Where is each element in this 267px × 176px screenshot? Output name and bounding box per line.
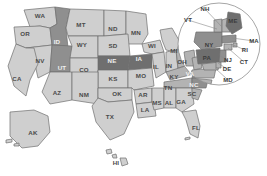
state-label-wy: WY [77,41,88,48]
state-label-ok: OK [112,90,122,97]
state-label-mt: MT [76,21,85,28]
state-nd[interactable] [104,10,126,36]
state-label-sc: SC [188,90,197,97]
inset-state-label-me: ME [228,18,237,24]
state-label-in: IN [166,62,173,69]
inset-state-label-vt: VT [184,17,192,23]
inset-state-label-ma: MA [249,38,259,44]
state-label-wi: WI [148,42,156,49]
state-nm[interactable] [72,72,98,104]
aleutian-island-1[interactable] [6,139,12,143]
state-ca[interactable] [8,44,38,96]
state-label-or: OR [20,30,30,37]
inset-state-ct[interactable] [224,44,232,50]
inset-state-label-ct: CT [240,59,249,65]
state-hi[interactable] [120,158,128,166]
state-label-mo: MO [136,72,146,79]
florida-keys[interactable] [185,137,190,140]
state-label-nc: NC [189,81,199,88]
state-label-nv: NV [36,57,46,64]
state-label-co: CO [79,66,89,73]
state-label-ut: UT [58,64,67,71]
inset-state-label-md: MD [223,77,233,83]
state-label-ia: IA [136,55,143,62]
state-label-nd: ND [108,25,118,32]
state-label-nm: NM [79,91,89,98]
state-mn[interactable] [126,11,148,44]
state-label-hi: HI [113,159,120,166]
state-label-ky: KY [170,73,180,80]
state-label-tx: TX [106,113,115,120]
state-label-az: AZ [53,89,62,96]
state-label-ak: AK [28,129,38,136]
state-label-sd: SD [109,42,118,49]
hawaii-island-1[interactable] [106,149,112,154]
state-label-ar: AR [138,91,148,98]
state-label-ks: KS [109,75,118,82]
inset-state-ma[interactable] [222,35,236,43]
state-label-ne: NE [108,57,117,64]
inset-state-label-ri: RI [242,47,249,53]
inset-state-label-nh: NH [200,6,209,12]
inset-state-de[interactable] [216,62,221,68]
state-label-wa: WA [35,12,46,19]
state-label-tn: TN [164,84,173,91]
map-svg: WAORIDMTNDMNWIMINVUTWYSDNEIACACOKSMOILIN… [0,0,267,176]
state-label-oh: OH [177,58,187,65]
state-label-mi: MI [170,47,177,54]
state-label-al: AL [165,99,174,106]
state-label-il: IL [153,63,159,70]
state-label-mn: MN [131,29,141,36]
state-label-ga: GA [176,98,186,105]
state-label-ca: CA [12,75,22,82]
us-choropleth-map: Percentage of Households, by State WAORI… [0,0,267,176]
state-label-va: VA [186,70,195,77]
inset-state-label-de: DE [223,66,232,72]
state-label-la: LA [141,106,150,113]
state-label-ms: MS [152,99,162,106]
inset-state-label-ny: NY [205,42,214,48]
state-label-id: ID [54,38,61,45]
inset-state-label-pa: PA [203,55,212,61]
hawaii-island-2[interactable] [112,154,117,158]
inset-state-label-nj: NJ [224,57,232,63]
aleutian-island-2[interactable] [14,143,19,146]
state-label-fl: FL [192,124,200,131]
